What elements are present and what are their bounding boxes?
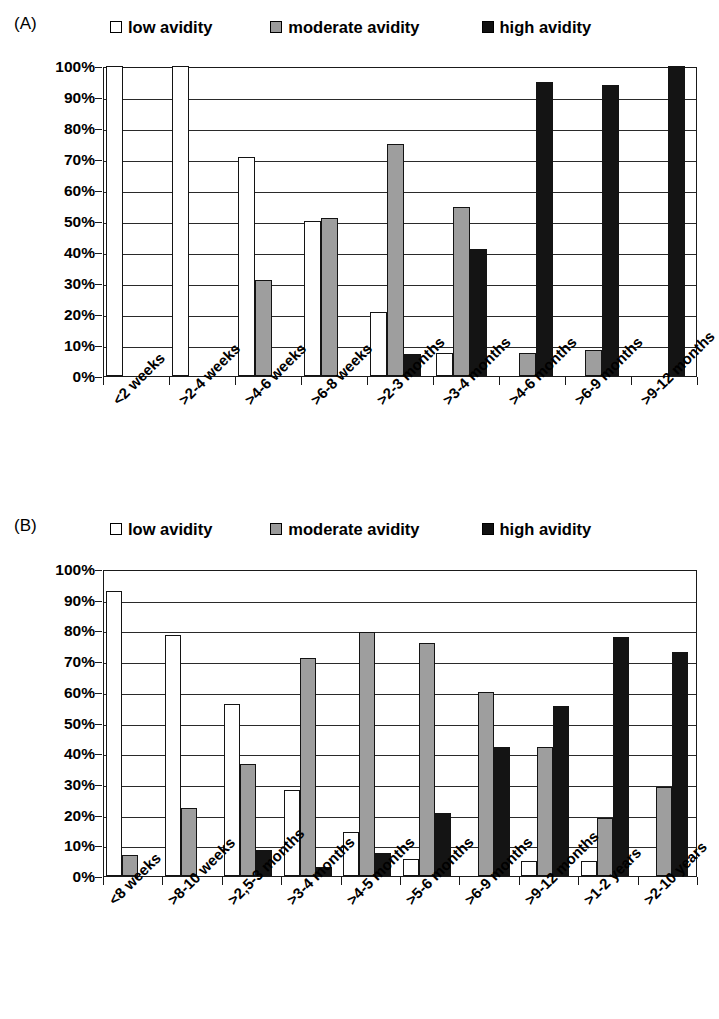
legend-swatch-moderate-icon	[270, 523, 282, 535]
y-tick-mark	[95, 377, 102, 378]
y-tick-label: 100%	[55, 58, 95, 76]
legend-item-high-avidity-a: high avidity	[482, 18, 592, 37]
legend-swatch-high-icon	[482, 523, 494, 535]
bar-group	[170, 68, 236, 376]
x-tick-mark	[519, 877, 520, 885]
bar-mod	[419, 643, 435, 876]
x-tick-mark	[565, 377, 566, 385]
bar-high	[613, 637, 629, 876]
bar-group	[104, 571, 163, 876]
bar-group	[223, 571, 282, 876]
bar-group	[639, 571, 698, 876]
legend-label-high-avidity: high avidity	[500, 18, 592, 37]
bar-group	[163, 571, 222, 876]
legend-item-high-avidity-b: high avidity	[482, 520, 592, 539]
y-axis-b: 100%90%80%70%60%50%40%30%20%10%0%	[33, 570, 95, 877]
legend-label-moderate-avidity: moderate avidity	[288, 18, 419, 37]
x-tick-mark	[222, 877, 223, 885]
bar-low	[581, 861, 597, 876]
bar-mod	[359, 632, 375, 876]
y-tick-label: 10%	[64, 837, 95, 855]
bar-group	[566, 68, 632, 376]
panel-b-tag: (B)	[14, 516, 37, 536]
bar-low	[403, 859, 419, 876]
x-axis-labels-a: <2 weeks>2-4 weeks>4-6 weeks>6-8 weeks>2…	[0, 386, 719, 506]
y-tick-mark	[95, 693, 102, 694]
y-tick-mark	[95, 160, 102, 161]
x-tick-mark	[301, 377, 302, 385]
x-tick-mark	[281, 877, 282, 885]
legend-b: low avidity moderate avidity high avidit…	[110, 518, 710, 540]
y-tick-mark	[95, 785, 102, 786]
bar-mod	[453, 207, 470, 376]
legend-label-high-avidity: high avidity	[500, 520, 592, 539]
bar-low	[106, 66, 123, 376]
y-tick-label: 0%	[73, 868, 95, 886]
bar-low	[106, 591, 122, 877]
legend-swatch-low-icon	[110, 21, 122, 33]
bar-group	[342, 571, 401, 876]
y-tick-label: 60%	[64, 182, 95, 200]
x-tick-mark	[162, 877, 163, 885]
y-tick-label: 70%	[64, 151, 95, 169]
x-tick-mark	[697, 377, 698, 385]
y-tick-label: 60%	[64, 684, 95, 702]
bar-mod	[387, 144, 404, 377]
y-tick-label: 30%	[64, 776, 95, 794]
y-tick-mark	[95, 222, 102, 223]
bar-low	[370, 312, 387, 376]
legend-label-low-avidity: low avidity	[128, 18, 212, 37]
y-tick-label: 80%	[64, 622, 95, 640]
y-tick-mark	[95, 315, 102, 316]
legend-item-low-avidity-b: low avidity	[110, 520, 212, 539]
x-tick-mark	[103, 377, 104, 385]
y-tick-label: 100%	[55, 561, 95, 579]
plot-area-b	[103, 570, 697, 877]
bar-mod	[537, 747, 553, 876]
y-tick-label: 30%	[64, 275, 95, 293]
x-tick-mark	[433, 377, 434, 385]
bars-layer-a	[104, 68, 696, 376]
y-tick-label: 20%	[64, 306, 95, 324]
x-tick-mark	[235, 377, 236, 385]
plot-frame-b	[103, 570, 697, 877]
x-axis-labels-b: <8 weeks>8-10 weeks>2,5-3 months>3-4 mon…	[0, 886, 719, 1006]
y-tick-mark	[95, 631, 102, 632]
bar-mod	[300, 658, 316, 876]
x-tick-mark	[578, 877, 579, 885]
x-tick-mark	[459, 877, 460, 885]
plot-area-a	[103, 67, 697, 377]
bar-high	[602, 85, 619, 376]
bar-low	[521, 861, 537, 876]
y-tick-label: 10%	[64, 337, 95, 355]
bar-high	[536, 82, 553, 377]
bar-group	[104, 68, 170, 376]
y-tick-mark	[95, 284, 102, 285]
x-tick-mark	[499, 377, 500, 385]
legend-swatch-moderate-icon	[270, 21, 282, 33]
y-tick-mark	[95, 253, 102, 254]
y-tick-label: 80%	[64, 120, 95, 138]
x-tick-mark	[631, 377, 632, 385]
y-tick-mark	[95, 98, 102, 99]
y-axis-a: 100%90%80%70%60%50%40%30%20%10%0%	[33, 67, 95, 377]
x-tick-mark	[697, 877, 698, 885]
y-tick-mark	[95, 754, 102, 755]
y-tick-mark	[95, 129, 102, 130]
bar-group	[401, 571, 460, 876]
legend-swatch-high-icon	[482, 21, 494, 33]
bar-high	[672, 652, 688, 876]
y-tick-label: 50%	[64, 715, 95, 733]
y-tick-mark	[95, 816, 102, 817]
y-tick-mark	[95, 846, 102, 847]
y-tick-mark	[95, 191, 102, 192]
legend-label-moderate-avidity: moderate avidity	[288, 520, 419, 539]
y-tick-label: 20%	[64, 807, 95, 825]
bar-group	[460, 571, 519, 876]
bar-group	[434, 68, 500, 376]
legend-item-low-avidity-a: low avidity	[110, 18, 212, 37]
bar-high	[668, 66, 685, 376]
y-tick-label: 40%	[64, 244, 95, 262]
y-tick-mark	[95, 877, 102, 878]
legend-item-moderate-avidity-b: moderate avidity	[270, 520, 419, 539]
